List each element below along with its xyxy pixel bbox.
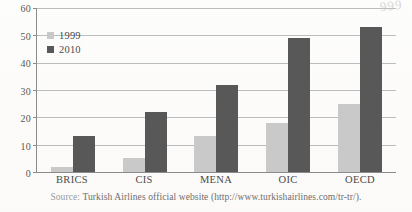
x-axis-tick-label: MENA [180, 174, 252, 190]
source-text: Turkish Airlines official website (http:… [82, 192, 361, 202]
bar-brics-2010 [73, 136, 95, 172]
bar-group [252, 8, 324, 172]
bar-group [324, 8, 396, 172]
source-prefix: Source: [50, 192, 80, 202]
bar-cis-1999 [123, 158, 145, 172]
y-axis-tick-mark [33, 172, 37, 173]
chart-legend: 19992010 [47, 30, 81, 55]
y-axis-tick-label: 50 [9, 30, 31, 41]
bar-mena-1999 [194, 136, 216, 172]
bar-chart: 0102030405060 19992010 [0, 8, 412, 173]
source-caption: Source: Turkish Airlines official websit… [0, 192, 412, 202]
bar-group [109, 8, 181, 172]
legend-swatch-icon [47, 32, 54, 39]
y-axis: 0102030405060 [0, 8, 31, 173]
bar-groups [37, 8, 396, 172]
y-axis-tick-label: 30 [9, 85, 31, 96]
legend-label: 2010 [59, 44, 81, 55]
legend-item-1999: 1999 [47, 30, 81, 41]
x-axis: BRICSCISMENAOICOECD [36, 174, 396, 190]
bar-cis-2010 [145, 112, 167, 172]
bar-brics-1999 [51, 167, 73, 172]
plot-area [36, 8, 396, 173]
legend-item-2010: 2010 [47, 44, 81, 55]
bar-oecd-2010 [360, 27, 382, 172]
y-axis-tick-label: 0 [9, 168, 31, 179]
bar-oecd-1999 [338, 104, 360, 172]
x-axis-tick-label: OECD [324, 174, 396, 190]
y-axis-tick-label: 10 [9, 140, 31, 151]
bar-group [181, 8, 253, 172]
bar-mena-2010 [216, 85, 238, 172]
y-axis-tick-label: 20 [9, 113, 31, 124]
y-axis-tick-label: 40 [9, 58, 31, 69]
bar-oic-2010 [288, 38, 310, 172]
legend-label: 1999 [59, 30, 81, 41]
legend-swatch-icon [47, 46, 54, 53]
x-axis-tick-label: BRICS [36, 174, 108, 190]
x-axis-tick-label: CIS [108, 174, 180, 190]
bar-oic-1999 [266, 123, 288, 172]
y-axis-tick-label: 60 [9, 3, 31, 14]
x-axis-tick-label: OIC [252, 174, 324, 190]
